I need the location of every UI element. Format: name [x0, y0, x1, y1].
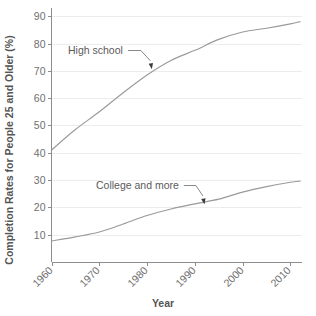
- annotation-label-college-and-more: College and more: [96, 179, 179, 191]
- y-tick-label-10: 10: [34, 229, 46, 241]
- y-tick-label-20: 20: [34, 201, 46, 213]
- y-tick-label-50: 50: [34, 119, 46, 131]
- y-tick-label-30: 30: [34, 174, 46, 186]
- y-tick-label-70: 70: [34, 65, 46, 77]
- y-tick-label-80: 80: [34, 38, 46, 50]
- annotation-label-high-school: High school: [68, 44, 123, 56]
- y-tick-label-90: 90: [34, 10, 46, 22]
- y-tick-label-40: 40: [34, 147, 46, 159]
- y-tick-label-60: 60: [34, 92, 46, 104]
- chart-figure: 102030405060708090 196019701980199020002…: [0, 0, 316, 316]
- x-axis-title: Year: [152, 297, 174, 309]
- y-axis-title: Completion Rates for People 25 and Older…: [3, 35, 15, 264]
- line-chart-svg: 102030405060708090 196019701980199020002…: [0, 0, 316, 316]
